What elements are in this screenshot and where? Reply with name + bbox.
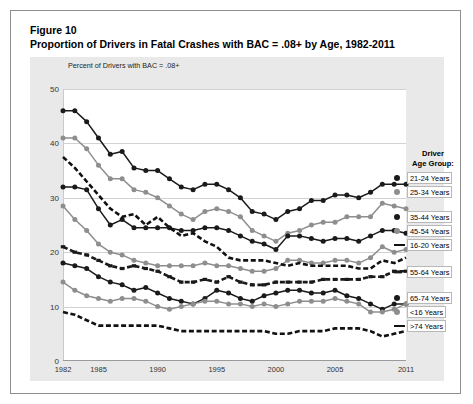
data-point — [214, 288, 219, 293]
data-point — [226, 301, 231, 306]
data-point — [143, 299, 148, 304]
legend-title-line1: Driver — [422, 149, 444, 158]
data-point — [96, 274, 101, 279]
data-point — [238, 266, 243, 271]
data-point — [155, 225, 160, 230]
data-point — [179, 281, 183, 284]
data-point — [155, 270, 159, 273]
data-point — [61, 108, 66, 113]
figure-label: Figure 10 — [30, 23, 395, 37]
data-point — [309, 198, 314, 203]
data-point — [273, 247, 278, 252]
data-point — [214, 263, 219, 268]
data-point — [344, 293, 349, 298]
data-point — [214, 225, 219, 230]
data-point — [368, 233, 373, 238]
data-point — [238, 301, 243, 306]
data-point — [297, 288, 302, 293]
data-point — [131, 225, 136, 230]
data-point — [262, 301, 267, 306]
data-point — [368, 255, 373, 260]
data-point — [321, 198, 326, 203]
legend-swatch-icon — [394, 244, 405, 246]
data-point — [226, 228, 231, 233]
data-point — [143, 285, 148, 290]
data-point — [96, 259, 100, 262]
series-55-64-years — [61, 245, 408, 286]
series-line — [63, 111, 406, 220]
data-point — [84, 266, 89, 271]
x-tick-label: 1995 — [208, 365, 225, 374]
data-point — [238, 195, 243, 200]
data-point — [309, 236, 314, 241]
data-point — [250, 239, 255, 244]
legend-title-line2: Age Group: — [412, 159, 454, 168]
y-tick-label: 30 — [50, 193, 59, 202]
figure-frame: Figure 10 Proportion of Drivers in Fatal… — [10, 10, 461, 394]
data-point — [333, 278, 337, 281]
data-point — [108, 280, 113, 285]
legend-item-45-54-years[interactable]: 45-54 Years — [407, 225, 452, 237]
chart-container: Percent of Drivers with BAC = .08+ 01020… — [30, 57, 444, 381]
data-point — [321, 220, 326, 225]
data-point — [273, 239, 278, 244]
data-point — [273, 304, 278, 309]
data-point — [392, 203, 397, 208]
legend-item-65-74-years[interactable]: 65-74 Years — [407, 292, 452, 304]
data-point — [179, 304, 184, 309]
data-point — [108, 152, 113, 157]
data-point — [131, 165, 136, 170]
data-point — [202, 182, 207, 187]
legend-item--74-years[interactable]: >74 Years — [407, 320, 446, 332]
data-point — [368, 275, 372, 278]
plot-area: 01020304050 1982198519901995200020052011 — [63, 89, 406, 361]
data-point — [344, 236, 349, 241]
series-21-24-years — [61, 108, 409, 222]
data-point — [380, 244, 385, 249]
data-point — [392, 182, 397, 187]
data-point — [155, 291, 160, 296]
data-point — [368, 301, 373, 306]
data-point — [321, 299, 326, 304]
legend-item-35-44-years[interactable]: 35-44 Years — [407, 211, 452, 223]
data-point — [368, 190, 373, 195]
legend-item-16-20-years[interactable]: 16-20 Years — [407, 239, 452, 251]
data-point — [262, 283, 266, 286]
legend-swatch-icon — [394, 214, 400, 220]
data-point — [61, 280, 66, 285]
y-tick-label: 20 — [50, 248, 59, 257]
data-point — [333, 220, 338, 225]
y-tick-label: 10 — [50, 302, 59, 311]
data-point — [344, 258, 349, 263]
data-point — [380, 310, 385, 315]
data-point — [143, 190, 148, 195]
data-point — [286, 281, 290, 284]
data-point — [202, 299, 207, 304]
data-point — [344, 214, 349, 219]
data-point — [368, 310, 373, 315]
series--74-years — [63, 312, 406, 336]
data-point — [250, 304, 255, 309]
data-point — [120, 296, 125, 301]
x-tick-label: 1985 — [90, 365, 107, 374]
data-point — [274, 281, 278, 284]
data-point — [131, 296, 136, 301]
data-point — [120, 282, 125, 287]
legend-item-21-24-years[interactable]: 21-24 Years — [407, 172, 452, 184]
data-point — [273, 217, 278, 222]
legend-item--16-years[interactable]: <16 Years — [407, 306, 446, 318]
title-block: Figure 10 Proportion of Drivers in Fatal… — [30, 23, 395, 52]
x-tick-label: 2005 — [327, 365, 344, 374]
legend-item-55-64-years[interactable]: 55-64 Years — [407, 266, 452, 278]
data-point — [144, 267, 148, 270]
data-point — [238, 281, 242, 284]
data-point — [96, 242, 101, 247]
data-point — [61, 135, 66, 140]
data-point — [155, 168, 160, 173]
legend-swatch-icon — [394, 228, 400, 234]
legend-item-25-34-years[interactable]: 25-34 Years — [407, 186, 452, 198]
data-point — [250, 283, 254, 286]
data-point — [333, 296, 338, 301]
data-point — [226, 263, 231, 268]
data-point — [108, 264, 112, 267]
